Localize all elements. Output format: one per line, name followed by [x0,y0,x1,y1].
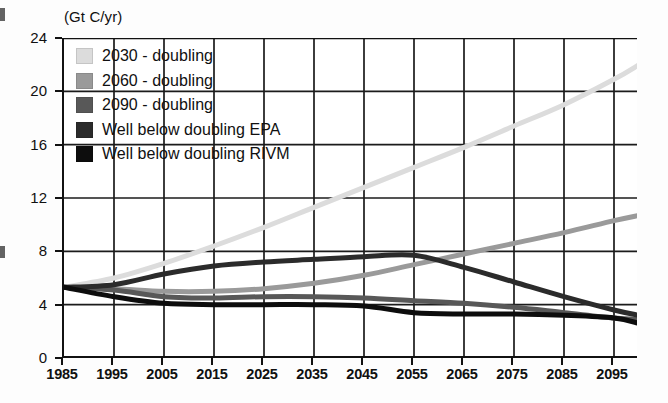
x-tick-label: 2035 [289,366,335,382]
x-tick-label: 2085 [539,366,585,382]
y-tick-mark [55,197,62,199]
x-tick-label: 2065 [439,366,485,382]
x-tick-label: 2025 [239,366,285,382]
y-tick-label: 16 [17,136,47,153]
y-tick-mark [55,304,62,306]
x-tick-mark [461,358,463,365]
x-tick-label: 1985 [39,366,85,382]
x-tick-mark [361,358,363,365]
legend-swatch-icon [76,48,93,64]
y-tick-label: 24 [17,29,47,46]
legend-label: 2090 - doubling [102,96,213,114]
figure-emissions-scenarios: (Gt C/yr) 048121620241985199520052015202… [0,0,668,403]
legend-label: Well below doubling EPA [102,121,280,139]
x-tick-label: 2075 [489,366,535,382]
x-tick-label: 2015 [189,366,235,382]
x-tick-mark [311,358,313,365]
legend-item: Well below doubling EPA [76,118,290,143]
legend-label: 2060 - doubling [102,72,213,90]
x-tick-mark [611,358,613,365]
y-tick-label: 20 [17,82,47,99]
y-tick-mark [55,144,62,146]
y-tick-label: 8 [17,242,47,259]
x-tick-mark [211,358,213,365]
x-tick-mark [511,358,513,365]
scan-artifact-top-left [0,8,5,21]
y-axis-unit-label: (Gt C/yr) [64,8,122,25]
chart-legend: 2030 - doubling2060 - doubling2090 - dou… [76,44,290,167]
legend-swatch-icon [76,146,93,162]
legend-item: 2060 - doubling [76,69,290,94]
x-tick-label: 2055 [389,366,435,382]
legend-label: 2030 - doubling [102,47,213,65]
y-tick-label: 4 [17,296,47,313]
x-tick-mark [61,358,63,365]
x-tick-mark [411,358,413,365]
y-tick-mark [55,250,62,252]
y-tick-mark [55,90,62,92]
x-tick-label: 2045 [339,366,385,382]
scan-artifact-mid-left [0,246,5,258]
legend-swatch-icon [76,97,93,113]
x-tick-label: 2095 [589,366,635,382]
x-tick-mark [161,358,163,365]
legend-item: Well below doubling RIVM [76,142,290,167]
legend-swatch-icon [76,73,93,89]
legend-swatch-icon [76,122,93,138]
x-tick-mark [111,358,113,365]
series-line-2 [64,215,637,291]
x-tick-label: 1995 [89,366,135,382]
y-tick-label: 12 [17,189,47,206]
y-tick-mark [55,37,62,39]
legend-item: 2090 - doubling [76,93,290,118]
x-tick-label: 2005 [139,366,185,382]
legend-label: Well below doubling RIVM [102,145,290,163]
x-tick-mark [261,358,263,365]
y-tick-label: 0 [17,349,47,366]
legend-item: 2030 - doubling [76,44,290,69]
x-tick-mark [561,358,563,365]
